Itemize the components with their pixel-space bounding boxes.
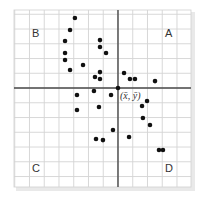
quadrant-label-c: C [32,162,40,174]
data-point [75,108,80,113]
data-point [98,77,103,82]
data-point [122,71,127,76]
data-point [75,93,80,98]
data-point [140,104,145,109]
data-point [145,99,150,104]
data-point [68,68,73,73]
data-point [93,75,98,80]
data-point [148,123,153,128]
data-point [128,77,133,82]
data-point [157,148,162,153]
data-point [81,63,86,68]
quadrant-label-a: A [165,27,173,39]
data-point [73,16,78,21]
data-point [63,51,68,56]
data-point [94,137,99,142]
data-point [101,138,106,143]
data-point [111,128,116,133]
data-point [63,39,68,44]
data-point [109,93,114,98]
data-point [133,77,138,82]
data-point [98,70,103,75]
data-point [161,148,166,153]
data-point [153,79,158,84]
mean-point-label: (x̄, ȳ) [120,90,141,102]
data-point [141,116,146,121]
data-point [104,51,109,56]
data-point [92,89,97,94]
data-point [68,28,73,33]
data-point [97,105,102,110]
quadrant-label-d: D [165,162,173,174]
quadrant-label-b: B [32,27,39,39]
data-point [98,45,103,50]
data-point [63,58,68,63]
scatter-plot: A B C D (x̄, ȳ) [0,0,207,201]
data-point [98,38,103,43]
data-point [127,135,132,140]
